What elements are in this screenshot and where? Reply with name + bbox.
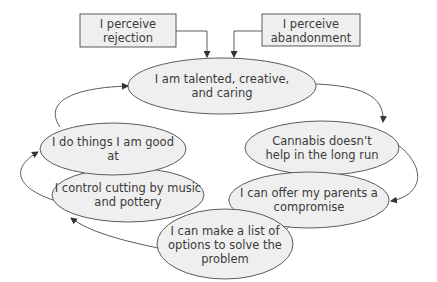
node-talented: I am talented, creative, and caring [128, 58, 316, 114]
edge-good-to-talented [55, 86, 128, 127]
box-abandonment: I perceive abandonment [262, 14, 360, 46]
node-list-line1: I can make a list of [171, 224, 281, 238]
cycle-diagram: I perceive rejection I perceive abandonm… [0, 0, 437, 282]
node-control-line1: I control cutting by music [55, 181, 201, 195]
node-cannabis: Cannabis doesn’t help in the long run [245, 121, 399, 175]
node-cannabis-line2: help in the long run [266, 148, 379, 162]
node-talented-line2: and caring [191, 86, 252, 100]
edge-rejection-to-talented [176, 31, 207, 57]
node-list-line3: problem [201, 252, 249, 266]
box-rejection: I perceive rejection [80, 14, 176, 47]
node-good-line2: at [107, 149, 119, 163]
box-abandonment-line2: abandonment [271, 31, 352, 45]
node-talented-line1: I am talented, creative, [155, 72, 289, 86]
edge-abandonment-to-talented [234, 31, 262, 57]
node-good-line1: I do things I am good [52, 135, 174, 149]
edge-talented-to-cannabis [316, 84, 383, 122]
node-control-line2: and pottery [94, 195, 161, 209]
box-rejection-line1: I perceive [100, 17, 156, 31]
node-compromise-line1: I can offer my parents a [240, 186, 378, 200]
node-good: I do things I am good at [40, 123, 186, 175]
node-compromise-line2: compromise [274, 200, 345, 214]
box-abandonment-line1: I perceive [283, 17, 339, 31]
box-rejection-line2: rejection [103, 31, 153, 45]
node-cannabis-line1: Cannabis doesn’t [272, 134, 372, 148]
node-list-line2: options to solve the [168, 238, 282, 252]
edge-list-to-control [71, 218, 158, 248]
node-list: I can make a list of options to solve th… [157, 209, 293, 279]
node-control: I control cutting by music and pottery [52, 168, 204, 222]
